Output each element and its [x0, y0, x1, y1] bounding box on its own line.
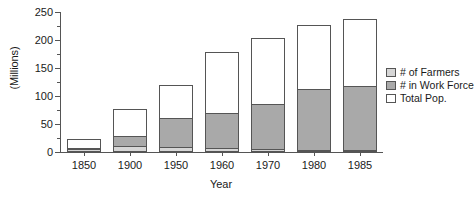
legend-item-label: Total Pop. — [400, 93, 447, 104]
y-tick-label: 200 — [35, 35, 53, 46]
x-tick-mark — [130, 152, 131, 156]
y-tick-label: 100 — [35, 91, 53, 102]
bar-group[interactable] — [159, 85, 192, 152]
legend-swatch-icon — [386, 81, 396, 90]
x-tick-label: 1950 — [164, 159, 188, 171]
tick-mark — [57, 26, 60, 27]
y-axis-title: (Millions) — [8, 20, 20, 116]
legend-swatch-icon — [386, 68, 396, 77]
tick-mark — [55, 40, 60, 41]
y-tick-label: 250 — [35, 7, 53, 18]
plot-area: 050100150200250 185019001950196019701980… — [60, 12, 382, 152]
bar-group[interactable] — [67, 139, 100, 152]
x-tick-label: 1980 — [302, 159, 326, 171]
bar-segment-farmers[interactable] — [205, 148, 238, 152]
bar-segment-farmers[interactable] — [343, 150, 376, 152]
x-tick-label: 1960 — [210, 159, 234, 171]
x-tick-mark — [314, 152, 315, 156]
bar-segment-farmers[interactable] — [113, 146, 146, 152]
legend-item-label: # of Farmers — [400, 67, 460, 78]
x-tick-mark — [268, 152, 269, 156]
tick-mark — [55, 68, 60, 69]
bar-group[interactable] — [297, 25, 330, 152]
legend-item[interactable]: Total Pop. — [386, 92, 476, 104]
stacked-bar-chart: (Millions) 050100150200250 1850190019501… — [0, 0, 476, 205]
bar-group[interactable] — [251, 38, 284, 152]
legend-item[interactable]: # in Work Force — [386, 79, 476, 91]
tick-mark — [57, 138, 60, 139]
x-tick-mark — [360, 152, 361, 156]
chart-legend: # of Farmers# in Work ForceTotal Pop. — [386, 66, 476, 105]
tick-mark — [55, 96, 60, 97]
x-tick-label: 1970 — [256, 159, 280, 171]
legend-item-label: # in Work Force — [400, 80, 474, 91]
bar-segment-farmers[interactable] — [159, 147, 192, 152]
x-axis-title: Year — [60, 178, 382, 190]
bar-segment-work-force[interactable] — [343, 86, 376, 152]
bar-segment-work-force[interactable] — [251, 104, 284, 152]
x-tick-label: 1900 — [118, 159, 142, 171]
tick-mark — [57, 110, 60, 111]
bar-series-group — [61, 12, 383, 152]
legend-swatch-icon — [386, 94, 396, 103]
x-tick-label: 1850 — [72, 159, 96, 171]
x-tick-mark — [222, 152, 223, 156]
tick-mark — [57, 82, 60, 83]
legend-item[interactable]: # of Farmers — [386, 66, 476, 78]
tick-mark — [55, 12, 60, 13]
bar-group[interactable] — [205, 52, 238, 152]
y-tick-label: 150 — [35, 63, 53, 74]
bar-group[interactable] — [343, 19, 376, 152]
tick-mark — [55, 152, 60, 153]
x-tick-label: 1985 — [348, 159, 372, 171]
y-tick-label: 50 — [41, 119, 53, 130]
bar-segment-farmers[interactable] — [297, 150, 330, 152]
bar-segment-farmers[interactable] — [67, 149, 100, 152]
x-tick-mark — [176, 152, 177, 156]
tick-mark — [57, 54, 60, 55]
tick-mark — [55, 124, 60, 125]
bar-segment-farmers[interactable] — [251, 149, 284, 152]
bar-group[interactable] — [113, 109, 146, 152]
y-tick-label: 0 — [47, 147, 53, 158]
bar-segment-work-force[interactable] — [205, 113, 238, 152]
bar-segment-work-force[interactable] — [297, 89, 330, 152]
x-tick-mark — [84, 152, 85, 156]
